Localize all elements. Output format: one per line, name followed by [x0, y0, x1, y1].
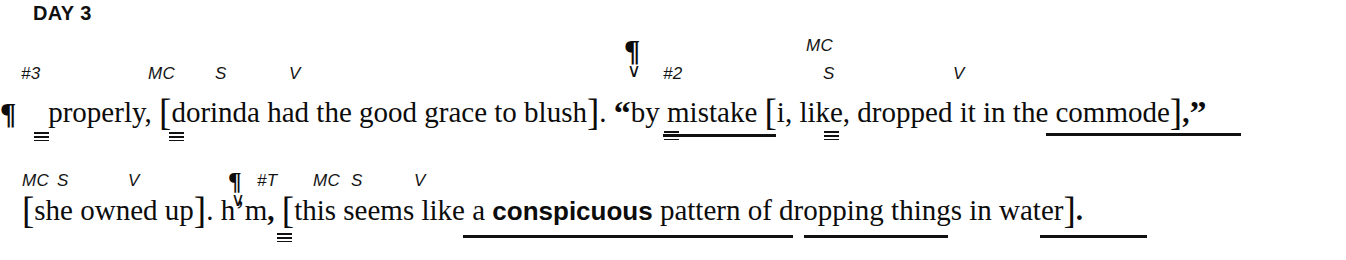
close-bracket: ] — [587, 92, 599, 133]
underline-in-water — [1040, 235, 1147, 238]
line1-text: properly, [dorinda had the good grace to… — [16, 96, 1206, 128]
open-quote: “ — [614, 94, 631, 131]
underline-by-mistake — [663, 134, 776, 137]
line2-clause-1: she owned up — [34, 194, 193, 226]
grammar-label-mc: MC — [313, 171, 340, 191]
transcript-page: DAY 3 #3MCSV#2MCSVMCSV#TMCSV ¶¶∨¶∨ ¶prop… — [0, 0, 1346, 260]
open-bracket: [ — [765, 92, 777, 133]
line2-clause-2-cont: pattern of dropping things in water — [653, 194, 1064, 226]
underline-of-dropping-things — [804, 235, 948, 238]
cap-mark-i — [824, 131, 839, 140]
grammar-label-mc: MC — [22, 171, 49, 191]
grammar-label-v: V — [289, 64, 301, 84]
grammar-label-hash2: #2 — [663, 64, 683, 84]
close-bracket: ] — [1063, 190, 1075, 231]
open-bracket: [ — [22, 190, 34, 231]
grammar-label-v: V — [128, 171, 140, 191]
open-bracket: [ — [282, 190, 294, 231]
pilcrow-hash2: ¶∨ — [624, 33, 641, 82]
grammar-label-s: S — [351, 171, 363, 191]
grammar-label-v: V — [414, 171, 426, 191]
line1-quoted-1: by mistake — [631, 96, 757, 128]
grammar-label-s: S — [57, 171, 69, 191]
cap-mark-dorinda — [169, 132, 184, 141]
grammar-label-hasht: #T — [257, 171, 277, 191]
transcript-line-2: [she owned up]. h’m, [this seems like a … — [22, 196, 1083, 225]
cap-mark-hm — [277, 233, 292, 242]
line1-clause-2: i, like, dropped it in the commode — [777, 96, 1170, 128]
grammar-label-hash3: #3 — [21, 64, 41, 84]
close-bracket: ] — [194, 190, 206, 231]
underline-in-the-commode — [1046, 133, 1241, 136]
line2-interjection: h’m — [221, 194, 268, 226]
underline-like-a-conspicuous-pattern — [463, 235, 793, 238]
open-bracket: [ — [159, 92, 171, 133]
close-quote: ” — [1189, 94, 1206, 131]
check-icon: ∨ — [627, 59, 641, 82]
line1-clause-1: dorinda had the good grace to blush — [171, 96, 587, 128]
grammar-label-s: S — [823, 64, 835, 84]
grammar-label-v: V — [953, 64, 965, 84]
transcript-line-1: ¶properly, [dorinda had the good grace t… — [0, 94, 1206, 128]
close-bracket: ] — [1170, 92, 1182, 133]
grammar-label-s: S — [215, 64, 227, 84]
line2-clause-2: this seems like a — [294, 194, 492, 226]
page-title: DAY 3 — [33, 2, 92, 25]
emphasised-word: conspicuous — [492, 196, 652, 226]
grammar-label-mc: MC — [148, 64, 175, 84]
cap-mark-properly — [34, 132, 49, 141]
grammar-label-mc: MC — [806, 36, 833, 56]
